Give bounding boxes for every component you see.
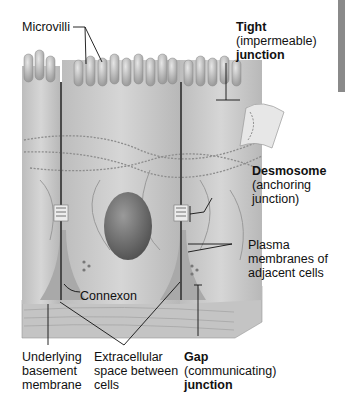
plasma-l3: adjacent cells [248,266,328,280]
cell-junctions-diagram: Microvilli Tight (impermeable) junction … [0,0,345,400]
basement-l3: membrane [22,378,82,392]
extracellular-l3: cells [94,378,178,392]
label-basement-membrane: Underlying basement membrane [22,350,82,392]
label-gap-junction: Gap (communicating) junction [184,350,276,392]
nucleus [104,192,152,260]
tight-bold2: junction [236,48,285,62]
tight-bold: Tight [236,20,266,34]
label-connexon: Connexon [80,289,137,303]
page-edge-tab [338,0,345,92]
basement-l1: Underlying [22,350,82,364]
gap-bold2: junction [184,378,233,392]
label-desmosome: Desmosome (anchoring junction) [252,164,326,206]
label-tight-junction: Tight (impermeable) junction [236,20,317,62]
gap-bold: Gap [184,350,208,364]
tight-junction-flap [240,104,284,148]
label-microvilli: Microvilli [22,20,70,34]
basement-l2: basement [22,364,82,378]
label-extracellular-space: Extracellular space between cells [94,350,178,392]
desmosome-sub: (anchoring [252,178,326,192]
extracellular-l2: space between [94,364,178,378]
desmosome-sub2: junction) [252,192,326,206]
gap-sub: (communicating) [184,364,276,378]
plasma-l1: Plasma [248,238,328,252]
desmosome-bold: Desmosome [252,164,326,178]
label-plasma-membranes: Plasma membranes of adjacent cells [248,238,328,280]
plasma-l2: membranes of [248,252,328,266]
tight-sub: (impermeable) [236,34,317,48]
extracellular-l1: Extracellular [94,350,178,364]
